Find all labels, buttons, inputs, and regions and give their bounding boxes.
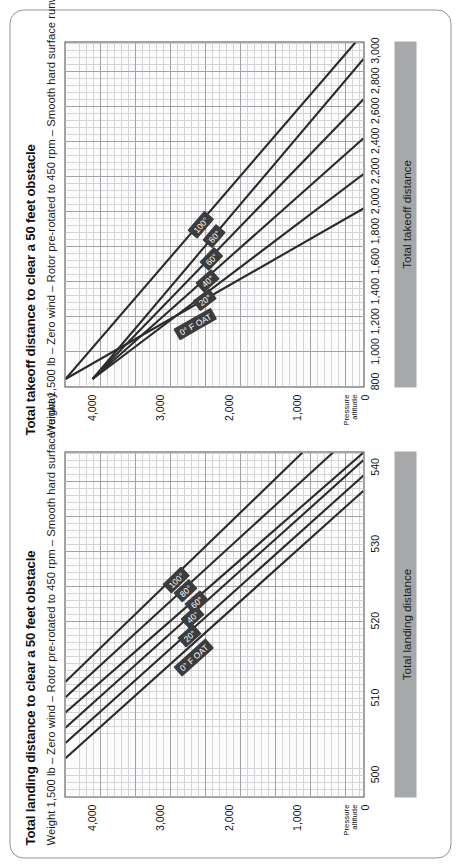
landing-y-tick-label: 1,000 (290, 804, 302, 831)
landing-x-tick-label: 530 (368, 534, 380, 552)
landing-curves (65, 452, 363, 796)
landing-y-tick-label: 2,000 (222, 804, 234, 831)
takeoff-plot-area: 0° F OAT20°40°60°80°100° (64, 41, 364, 387)
takeoff-x-tick-label: 2,600 (368, 97, 380, 124)
takeoff-y-tick-label: 4,000 (85, 394, 97, 421)
takeoff-chart-subtitle: Weight 1,500 lb – Zero wind – Rotor pre-… (44, 39, 56, 435)
takeoff-y-axis-title: Pressurealtitude (342, 394, 359, 436)
takeoff-x-tick-label: 2,000 (368, 187, 380, 214)
takeoff-x-tick-label: 1,600 (368, 247, 380, 274)
takeoff-curve (92, 99, 363, 379)
landing-chart-subtitle: Weight 1,500 lb – Zero wind – Rotor pre-… (44, 449, 56, 845)
takeoff-curves (65, 42, 363, 386)
chart-page: Total landing distance to clear a 50 fee… (0, 0, 460, 867)
landing-curve (65, 490, 363, 758)
landing-y-tick-label: 0 (358, 804, 370, 810)
landing-distance-chart-panel: Total landing distance to clear a 50 fee… (18, 449, 442, 845)
takeoff-y-tick-label: 2,000 (222, 394, 234, 421)
takeoff-x-tick-label: 2,200 (368, 157, 380, 184)
takeoff-x-tick-label: 2,800 (368, 67, 380, 94)
takeoff-curve (92, 138, 363, 379)
takeoff-x-tick-label: 1,800 (368, 217, 380, 244)
takeoff-x-tick-label: 800 (368, 372, 380, 390)
landing-plot-area: 0° F OAT20°40°60°80°100° (64, 451, 364, 797)
landing-curve (65, 452, 302, 681)
landing-axis-bar: Total landing distance (394, 451, 416, 797)
landing-x-axis-ticks: 500510520530540 (368, 451, 390, 797)
landing-axis-bar-label: Total landing distance (399, 568, 412, 680)
landing-x-tick-label: 540 (368, 458, 380, 476)
landing-curve (65, 475, 363, 743)
takeoff-axis-bar: Total takeoff distance (394, 41, 416, 387)
takeoff-chart-title: Total takeoff distance to clear a 50 fee… (22, 39, 37, 435)
takeoff-x-tick-label: 1,000 (368, 338, 380, 365)
takeoff-distance-chart-panel: Total takeoff distance to clear a 50 fee… (18, 39, 442, 435)
takeoff-curve (92, 58, 363, 378)
landing-y-tick-label: 4,000 (85, 804, 97, 831)
takeoff-y-axis-ticks: 01,0002,0003,0004,000Pressurealtitude (64, 391, 364, 435)
takeoff-y-tick-label: 1,000 (290, 394, 302, 421)
takeoff-curve (65, 42, 355, 379)
takeoff-x-tick-label: 2,400 (368, 127, 380, 154)
landing-curve (65, 452, 363, 712)
takeoff-x-tick-label: 3,000 (368, 37, 380, 64)
landing-x-tick-label: 510 (368, 688, 380, 706)
landing-y-axis-ticks: 01,0002,0003,0004,000Pressurealtitude (64, 801, 364, 845)
takeoff-x-tick-label: 1,400 (368, 277, 380, 304)
landing-y-axis-title: Pressurealtitude (342, 804, 359, 846)
landing-curve (65, 460, 363, 728)
landing-x-tick-label: 500 (368, 765, 380, 783)
screenshot-root: Total landing distance to clear a 50 fee… (0, 0, 460, 867)
takeoff-curve (92, 174, 363, 379)
landing-y-tick-label: 3,000 (153, 804, 165, 831)
takeoff-y-tick-label: 3,000 (153, 394, 165, 421)
landing-chart-title: Total landing distance to clear a 50 fee… (22, 449, 37, 845)
landing-x-tick-label: 520 (368, 611, 380, 629)
takeoff-axis-bar-label: Total takeoff distance (399, 160, 412, 269)
takeoff-y-tick-label: 0 (358, 394, 370, 400)
takeoff-x-axis-ticks: 8001,0001,2001,4001,6001,8002,0002,2002,… (368, 41, 390, 387)
takeoff-x-tick-label: 1,200 (368, 308, 380, 335)
